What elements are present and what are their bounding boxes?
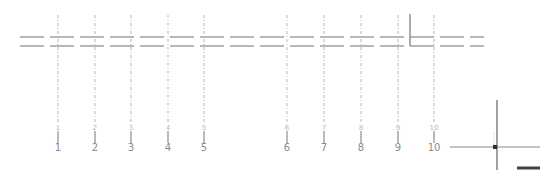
axis-number-label: 2	[92, 142, 98, 153]
axis-number-label: 7	[321, 142, 327, 153]
axis-number-label: 6	[284, 142, 290, 153]
axis-number-label: 8	[358, 142, 364, 153]
grid-axis-5: 55	[201, 15, 207, 153]
grid-axis-2: 22	[92, 15, 98, 153]
axis-small-label: 7	[322, 124, 326, 132]
axis-small-label: 2	[93, 124, 97, 132]
grid-axis-1: 11	[55, 15, 61, 153]
axis-number-label: 3	[128, 142, 134, 153]
grid-axis-7: 77	[321, 15, 327, 153]
axis-small-label: 9	[396, 124, 400, 132]
grid-axis-3: 33	[128, 15, 134, 153]
axis-number-label: 1	[55, 142, 61, 153]
grid-axis-6: 66	[284, 15, 290, 153]
axis-small-label: 4	[166, 124, 171, 132]
axis-small-label: 6	[285, 124, 290, 132]
axis-small-label: 5	[202, 124, 206, 132]
cursor-pickbox	[493, 145, 497, 149]
axis-number-label: 5	[201, 142, 207, 153]
axis-number-label: 10	[428, 142, 441, 153]
horizontal-wall-lines	[20, 37, 484, 46]
grid-axis-10: 1010	[428, 15, 441, 153]
cad-drawing-canvas[interactable]: 1122334455667788991010	[0, 0, 560, 180]
grid-axis-8: 88	[358, 15, 364, 153]
grid-axis-4: 44	[165, 15, 171, 153]
axis-small-label: 1	[56, 124, 60, 132]
axis-number-label: 4	[165, 142, 171, 153]
axis-number-label: 9	[395, 142, 401, 153]
axis-small-label: 3	[129, 124, 133, 132]
axis-small-label: 8	[359, 124, 363, 132]
crosshair-cursor-icon	[450, 100, 540, 170]
grid-axis-9: 99	[395, 15, 401, 153]
axis-grid-lines: 1122334455667788991010	[55, 15, 441, 153]
axis-small-label: 10	[430, 124, 439, 132]
